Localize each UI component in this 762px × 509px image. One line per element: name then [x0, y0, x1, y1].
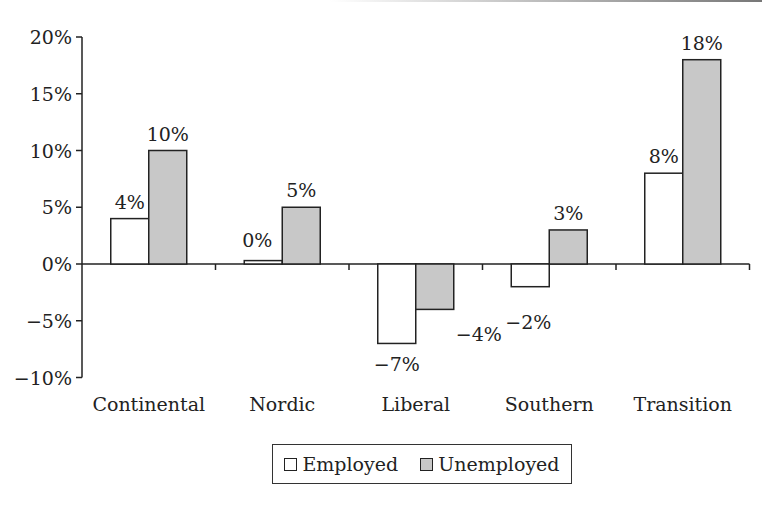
category-label-nordic: Nordic [249, 393, 315, 415]
bar-unemployed-southern [549, 230, 587, 264]
y-tick-label: 10% [30, 140, 72, 162]
category-label-liberal: Liberal [381, 393, 450, 415]
bar-employed-transition [645, 173, 683, 264]
y-tick-label: −10% [14, 367, 72, 389]
category-label-transition: Transition [633, 393, 732, 415]
value-label: −2% [505, 311, 551, 333]
value-label: 0% [242, 229, 272, 251]
legend-swatch-unemployed [420, 458, 433, 471]
legend-item-unemployed: Unemployed [420, 453, 559, 475]
bar-unemployed-nordic [282, 207, 320, 264]
value-label: −7% [374, 353, 420, 375]
legend-label-employed: Employed [302, 453, 398, 475]
value-label: 18% [681, 32, 723, 54]
y-tick-label: 0% [42, 253, 72, 275]
legend-label-unemployed: Unemployed [438, 453, 559, 475]
y-tick-label: −5% [26, 310, 72, 332]
category-label-southern: Southern [505, 393, 594, 415]
y-tick-label: 5% [42, 196, 72, 218]
bar-employed-nordic [244, 261, 282, 264]
category-label-continental: Continental [92, 393, 205, 415]
value-label: 10% [147, 123, 189, 145]
value-label: 8% [649, 145, 679, 167]
value-label: −4% [456, 323, 502, 345]
bar-unemployed-transition [683, 60, 721, 264]
value-label: 5% [286, 179, 316, 201]
bar-unemployed-continental [149, 151, 187, 265]
legend-item-employed: Employed [284, 453, 398, 475]
y-tick-label: 20% [30, 26, 72, 48]
y-tick-label: 15% [30, 83, 72, 105]
legend: Employed Unemployed [272, 444, 572, 484]
bar-chart: 20%15%10%5%0%−5%−10%4%10%Continental0%5%… [0, 0, 762, 509]
legend-swatch-employed [284, 458, 297, 471]
bar-employed-continental [111, 219, 149, 264]
bar-employed-liberal [378, 264, 416, 343]
value-label: 4% [115, 191, 145, 213]
bar-employed-southern [511, 264, 549, 287]
value-label: 3% [553, 202, 583, 224]
bar-unemployed-liberal [416, 264, 454, 309]
